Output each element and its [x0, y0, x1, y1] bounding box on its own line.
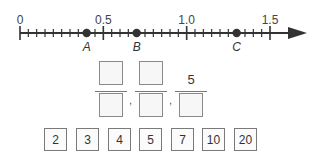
fraction-2-numerator-box[interactable] — [139, 61, 163, 85]
number-tile-10[interactable]: 10 — [202, 128, 225, 151]
point-label-a: A — [83, 40, 91, 54]
number-tile-7[interactable]: 7 — [171, 128, 194, 151]
point-label-b: B — [133, 40, 141, 54]
fraction-2-denominator-box[interactable] — [139, 93, 163, 117]
number-line-problem: 00.51.01.5 ABC , , 5 2 3 4 5 7 10 20 — [0, 0, 319, 159]
number-tile-5[interactable]: 5 — [139, 128, 162, 151]
point-c-marker — [232, 29, 240, 37]
fraction-3-numerator: 5 — [187, 72, 194, 87]
point-label-c: C — [232, 40, 241, 54]
number-tile-2[interactable]: 2 — [44, 128, 67, 151]
fraction-3-denominator-box[interactable] — [179, 93, 203, 117]
point-a-marker — [82, 29, 90, 37]
separator-comma: , — [129, 94, 132, 106]
tick-label: 1.0 — [178, 13, 195, 27]
number-tile-20[interactable]: 20 — [234, 128, 257, 151]
fraction-2-bar — [135, 91, 167, 92]
number-tile-4[interactable]: 4 — [108, 128, 131, 151]
fraction-1-bar — [95, 91, 127, 92]
fraction-1-denominator-box[interactable] — [99, 93, 123, 117]
number-tile-3[interactable]: 3 — [76, 128, 99, 151]
separator-comma: , — [169, 94, 172, 106]
tick-label: 0 — [17, 13, 24, 27]
fraction-1-numerator-box[interactable] — [99, 61, 123, 85]
tick-label: 0.5 — [95, 13, 112, 27]
number-line — [0, 0, 319, 60]
tick-label: 1.5 — [262, 13, 279, 27]
fraction-3-bar — [175, 91, 207, 92]
point-b-marker — [132, 29, 140, 37]
